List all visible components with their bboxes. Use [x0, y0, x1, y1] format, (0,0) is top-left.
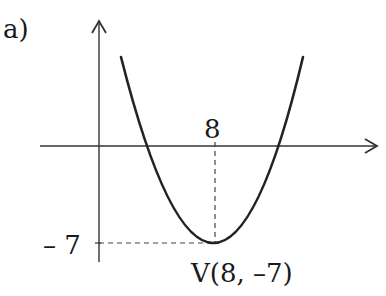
vertex-label: V(8, –7)	[190, 258, 293, 288]
y-tick-label: – 7	[43, 230, 81, 260]
part-label: a)	[3, 14, 29, 44]
parabola-diagram: a) 8 – 7 V(8, –7)	[0, 0, 386, 296]
y-axis	[92, 21, 106, 262]
x-tick-label: 8	[204, 114, 221, 144]
parabola-curve	[121, 57, 303, 243]
